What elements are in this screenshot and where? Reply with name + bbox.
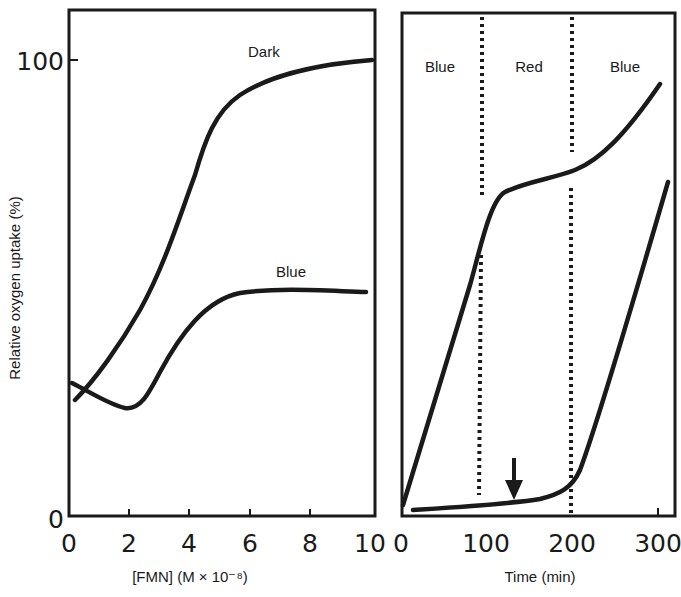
x-tick-label: 6: [242, 529, 258, 558]
left-plot-frame: [69, 10, 375, 516]
x-tick-label: 10: [354, 529, 386, 558]
y-tick-label-100: 100: [16, 47, 64, 76]
region-label-blue-2: Blue: [610, 58, 640, 75]
right-panel: 0 100 200 300 Time (min) Blue Red Blue: [393, 13, 681, 585]
curve-a: [403, 84, 660, 505]
y-axis-title: Relative oxygen uptake (%): [6, 196, 23, 379]
x-tick-label: 8: [302, 529, 318, 558]
x-tick-label: 200: [548, 529, 596, 558]
left-x-axis-title: [FMN] (M × 10⁻⁸): [132, 568, 248, 585]
figure: Relative oxygen uptake (%) 100 0 0 2 4 6…: [0, 0, 681, 597]
right-x-axis-title: Time (min): [504, 568, 575, 585]
left-panel: 100 0 0 2 4 6 8 10 [FMN] (M × 10⁻⁸) Dark…: [16, 10, 386, 585]
arrow-down-icon: [505, 458, 523, 500]
x-tick-label: 300: [634, 529, 681, 558]
region-label-red: Red: [515, 58, 543, 75]
dark-curve: [75, 60, 372, 400]
x-tick-label: 0: [61, 529, 77, 558]
x-tick-label: 100: [462, 529, 510, 558]
right-plot-frame: [402, 13, 675, 516]
divider-93min-lower: [479, 255, 481, 495]
x-tick-label: 0: [393, 529, 409, 558]
x-tick-label: 2: [121, 529, 137, 558]
dark-curve-label: Dark: [248, 43, 280, 60]
blue-curve-label: Blue: [276, 263, 306, 280]
x-tick-label: 4: [181, 529, 197, 558]
region-label-blue-1: Blue: [425, 58, 455, 75]
